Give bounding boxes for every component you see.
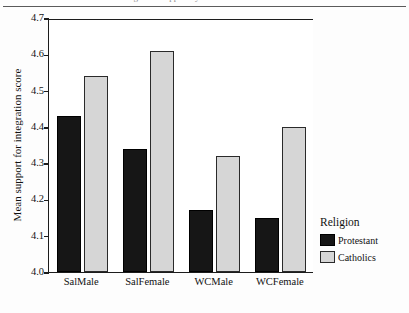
y-axis-tick bbox=[44, 236, 49, 238]
y-axis-tick bbox=[44, 18, 49, 20]
legend-label: Catholics bbox=[338, 252, 376, 263]
bar-protestant-wcmale bbox=[189, 210, 213, 272]
legend-swatch-protestant-icon bbox=[320, 234, 335, 246]
y-axis-tick bbox=[44, 127, 49, 129]
bar-catholics-salmale bbox=[84, 76, 108, 272]
legend-item-protestant: Protestant bbox=[320, 234, 409, 246]
x-axis-label-salmale: SalMale bbox=[48, 276, 114, 287]
bar-catholics-wcmale bbox=[216, 156, 240, 272]
bar-protestant-salfemale bbox=[123, 149, 147, 272]
legend-label: Protestant bbox=[338, 235, 378, 246]
y-axis-tick bbox=[44, 55, 49, 57]
bar-chart-figure: integration support by 4.74.64.54.44.34.… bbox=[0, 0, 409, 313]
y-axis-tick bbox=[44, 272, 49, 274]
cropped-title-text: integration support by bbox=[120, 0, 200, 2]
y-axis-tick-label: 4.7 bbox=[8, 13, 44, 24]
y-axis-tick bbox=[44, 163, 49, 165]
bar-protestant-wcfemale bbox=[255, 218, 279, 272]
bar-protestant-salmale bbox=[57, 116, 81, 272]
bars-container bbox=[49, 20, 313, 272]
x-axis-labels: SalMaleSalFemaleWCMaleWCFemale bbox=[48, 276, 313, 296]
y-axis-tick-label: 4.0 bbox=[8, 267, 44, 278]
y-axis-title: Mean support for integration score bbox=[11, 50, 23, 240]
x-axis-label-wcmale: WCMale bbox=[181, 276, 247, 287]
legend-item-catholics: Catholics bbox=[320, 251, 409, 263]
legend-swatch-catholics-icon bbox=[320, 251, 335, 263]
legend-title: Religion bbox=[320, 216, 409, 228]
legend-entries: ProtestantCatholics bbox=[320, 234, 409, 263]
y-axis-tick bbox=[44, 200, 49, 202]
plot-area bbox=[48, 19, 313, 273]
y-axis-labels: 4.74.64.54.44.34.24.14.0 bbox=[2, 0, 44, 313]
bar-catholics-wcfemale bbox=[282, 127, 306, 272]
x-axis-label-salfemale: SalFemale bbox=[114, 276, 180, 287]
x-axis-label-wcfemale: WCFemale bbox=[247, 276, 313, 287]
y-axis-tick bbox=[44, 91, 49, 93]
title-divider-rule bbox=[3, 6, 406, 7]
bar-catholics-salfemale bbox=[150, 51, 174, 272]
legend: Religion ProtestantCatholics bbox=[320, 216, 409, 268]
